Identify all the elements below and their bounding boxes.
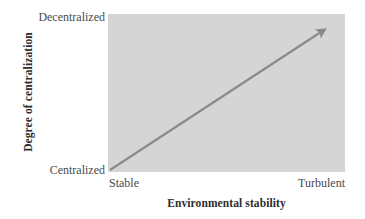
y-axis-title: Degree of centralization [22,7,34,177]
x-axis-tick-label-left: Stable [109,176,139,191]
figure-container: Degree of centralization Decentralized C… [0,0,365,219]
x-axis-title: Environmental stability [108,197,345,209]
x-axis-tick-label-right: Turbulent [285,176,345,191]
trend-arrow-graphic [108,14,345,172]
y-axis-tick-label-bottom: Centralized [0,163,105,178]
plot-area [108,14,345,172]
trend-arrow-line [110,30,324,170]
y-axis-tick-label-top: Decentralized [0,10,105,25]
